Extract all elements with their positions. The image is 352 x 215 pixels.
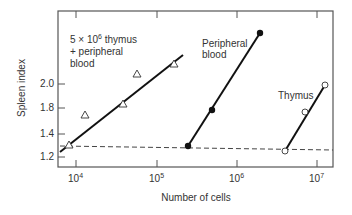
chart: 104 105 106 107 Number of cells 2.0 1.8 … xyxy=(0,0,352,215)
y-tick-label-1.8: 1.8 xyxy=(40,102,54,113)
y-tick-label-1.4: 1.4 xyxy=(40,128,54,139)
filled-circle-marker xyxy=(257,30,263,36)
x-tick-label-1e7: 107 xyxy=(309,172,324,184)
filled-circle-marker xyxy=(209,107,215,113)
triangle-marker xyxy=(133,70,141,77)
series-mixed xyxy=(60,55,183,152)
annotation-mixed-line1: 5 × 106 thymus xyxy=(70,33,137,45)
annotation-peripheral-line1: Peripheral xyxy=(202,38,248,49)
y-tick-label-2.0: 2.0 xyxy=(40,78,54,89)
annotation-mixed-line3: blood xyxy=(70,58,94,69)
y-tick-labels: 2.0 1.8 1.4 1.2 xyxy=(40,78,54,162)
x-axis-label: Number of cells xyxy=(161,192,230,203)
y-axis-label: Spleen index xyxy=(16,59,27,117)
triangle-marker xyxy=(81,111,89,118)
annotation-thymus: Thymus xyxy=(278,90,314,101)
x-tick-labels: 104 105 106 107 xyxy=(68,172,324,184)
x-tick-label-1e4: 104 xyxy=(68,172,83,184)
annotation-peripheral-line2: blood xyxy=(202,49,226,60)
filled-circle-marker xyxy=(185,143,191,149)
baseline-dashed xyxy=(60,146,333,150)
x-tick-label-1e5: 105 xyxy=(149,172,164,184)
open-circle-marker xyxy=(322,82,328,88)
x-tick-label-1e6: 106 xyxy=(229,172,244,184)
annotation-mixed-line2: + peripheral xyxy=(70,46,123,57)
open-circle-marker xyxy=(282,148,288,154)
annotations: 5 × 106 thymus + peripheral blood Periph… xyxy=(70,33,314,101)
open-circle-marker xyxy=(302,109,308,115)
y-tick-label-1.2: 1.2 xyxy=(40,151,54,162)
